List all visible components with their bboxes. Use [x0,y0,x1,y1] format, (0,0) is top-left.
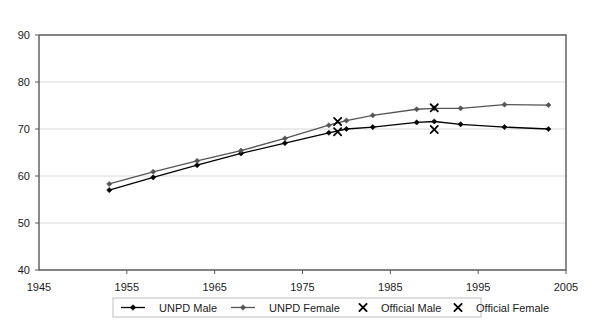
line-chart: 4050607080901945195519651975198519952005… [0,0,599,334]
y-axis-tick-label-80: 80 [18,76,30,88]
y-axis-tick-label-40: 40 [18,264,30,276]
legend-label: UNPD Female [269,302,340,314]
y-axis-tick-label-50: 50 [18,217,30,229]
plot-background [39,35,566,270]
x-axis-tick-label-1955: 1955 [115,281,139,293]
legend-label: Official Male [381,302,441,314]
x-axis-tick-label-1985: 1985 [378,281,402,293]
y-axis-tick-label-70: 70 [18,123,30,135]
x-axis-tick-label-1975: 1975 [290,281,314,293]
legend-label: Official Female [476,302,549,314]
chart-legend: UNPD MaleUNPD FemaleOfficial MaleOfficia… [113,298,549,317]
y-axis-tick-label-90: 90 [18,29,30,41]
legend-label: UNPD Male [159,302,217,314]
chart-container: 4050607080901945195519651975198519952005… [0,0,599,334]
x-axis-tick-label-1995: 1995 [466,281,490,293]
x-axis-tick-label-1945: 1945 [27,281,51,293]
y-axis-tick-label-60: 60 [18,170,30,182]
x-axis-tick-label-1965: 1965 [202,281,226,293]
x-axis-tick-label-2005: 2005 [554,281,578,293]
